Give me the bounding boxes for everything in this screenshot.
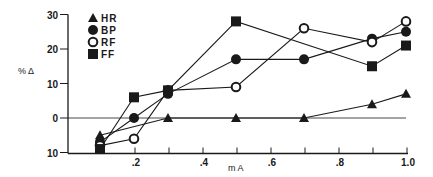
data-point-bp: [231, 54, 241, 64]
legend-label-hr: HR: [101, 13, 117, 24]
data-point-rf: [368, 38, 377, 47]
legend-label-rf: RF: [101, 37, 116, 48]
data-point-ff: [367, 61, 377, 71]
y-axis-title: % Δ: [18, 66, 34, 76]
x-tick-label: .2: [132, 157, 141, 168]
data-point-bp: [401, 27, 411, 37]
data-point-rf: [130, 134, 139, 143]
data-point-bp: [129, 113, 139, 123]
y-tick-label: 20: [47, 44, 59, 55]
x-tick-label: 1.0: [401, 157, 415, 168]
data-point-ff: [129, 92, 139, 102]
x-axis-title: m A: [228, 163, 244, 173]
series-line-bp: [100, 32, 406, 142]
series-line-rf: [100, 21, 406, 145]
chart-canvas: 302010010.2.4.6.81.0% Δm AHRBPRFFF: [0, 0, 433, 177]
data-point-ff: [163, 85, 173, 95]
open-circle-legend-icon: [89, 38, 98, 47]
data-point-ff: [231, 16, 241, 26]
y-tick-label: 30: [47, 10, 59, 21]
legend-label-bp: BP: [101, 25, 117, 36]
x-tick-label: .8: [336, 157, 345, 168]
triangle-legend-icon: [88, 13, 98, 22]
data-point-bp: [299, 54, 309, 64]
series-line-hr: [100, 94, 406, 135]
data-point-rf: [402, 17, 411, 26]
y-tick-label: 10: [47, 79, 59, 90]
data-point-hr: [401, 89, 411, 98]
data-point-ff: [95, 144, 105, 154]
data-point-rf: [300, 24, 309, 33]
square-legend-icon: [88, 49, 98, 59]
series-line-ff: [100, 21, 406, 149]
data-point-ff: [401, 41, 411, 51]
x-tick-label: .4: [200, 157, 209, 168]
y-tick-label: 10: [47, 148, 59, 159]
data-point-rf: [232, 83, 241, 92]
legend-label-ff: FF: [101, 49, 115, 60]
circle-legend-icon: [88, 25, 98, 35]
x-tick-label: .6: [268, 157, 277, 168]
y-tick-label: 0: [52, 113, 58, 124]
